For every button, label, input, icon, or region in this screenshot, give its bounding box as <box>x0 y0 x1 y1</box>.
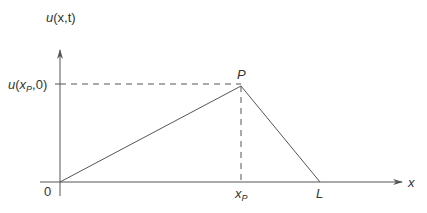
origin-label: 0 <box>44 184 51 199</box>
displacement-profile <box>60 86 320 182</box>
x-tick-label: xP <box>234 186 248 203</box>
y-tick-label: u(xP,0) <box>8 77 47 94</box>
end-point-label: L <box>316 186 323 201</box>
y-axis-label: u(x,t) <box>46 10 76 25</box>
peak-label: P <box>237 67 246 82</box>
diagram-canvas: u(x,t) u(xP,0) P 0 xP L x <box>0 0 427 213</box>
x-axis-label: x <box>407 175 415 190</box>
